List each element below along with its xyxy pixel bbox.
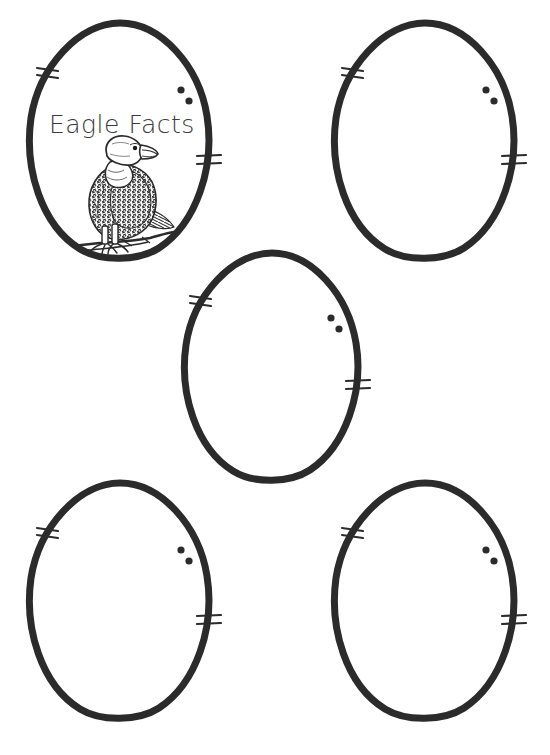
egg-dot-lower — [490, 97, 497, 104]
egg-dot-lower — [185, 557, 192, 564]
eagle-head — [106, 136, 142, 165]
bald-eagle-illustration — [62, 132, 180, 260]
eagle-eye — [133, 146, 137, 150]
egg-shape-4[interactable] — [21, 478, 219, 726]
egg-shape-5[interactable] — [326, 478, 524, 726]
egg-dot-lower — [335, 325, 342, 332]
egg-shape-1[interactable]: Eagle Facts — [21, 18, 219, 266]
egg-dots — [482, 546, 497, 564]
egg-dot-upper — [177, 86, 184, 93]
eagle-facts-worksheet: Eagle Facts — [0, 0, 550, 755]
egg-dot-upper — [327, 314, 334, 321]
egg-dot-upper — [482, 86, 489, 93]
egg-dot-upper — [177, 546, 184, 553]
egg-outline-path — [334, 483, 513, 718]
egg-dots — [482, 86, 497, 104]
egg-outline-path — [184, 253, 357, 480]
egg-shape-2[interactable] — [326, 18, 524, 266]
egg-outline-path — [29, 483, 208, 718]
egg-dot-upper — [482, 546, 489, 553]
egg-shape-3[interactable] — [176, 248, 368, 488]
egg-outline-path — [334, 23, 513, 258]
egg-dots — [327, 314, 342, 332]
egg-dot-lower — [185, 97, 192, 104]
egg-dots — [177, 86, 192, 104]
egg-dots — [177, 546, 192, 564]
egg-dot-lower — [490, 557, 497, 564]
